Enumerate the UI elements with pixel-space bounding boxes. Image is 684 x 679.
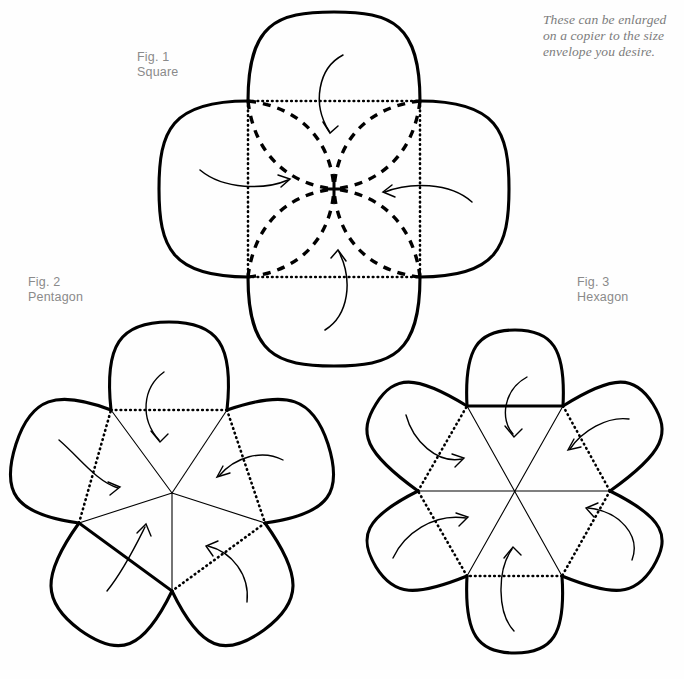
pentagon-fold-lower-left-solid <box>79 523 172 591</box>
figure-label-pentagon-line2: Pentagon <box>28 290 83 304</box>
figure-label-hexagon-line2: Hexagon <box>577 290 628 304</box>
hexagon-petal-upper-right <box>563 382 662 491</box>
pentagon-arrow-top <box>146 372 164 440</box>
pentagon-spoke-1 <box>111 410 172 493</box>
hexagon-petal-upper-left <box>367 382 467 491</box>
hexagon-arrow-upper-left <box>406 415 462 460</box>
pentagon-arrow-lower-right <box>208 546 247 602</box>
square-arrow-top <box>319 55 343 131</box>
figure-hexagon <box>367 330 662 653</box>
figure-label-pentagon: Fig. 2Pentagon <box>28 275 83 304</box>
hexagon-arrows <box>393 377 634 631</box>
envelope-template-drawing <box>0 0 684 679</box>
square-centre-mark <box>326 181 343 198</box>
hexagon-arrowhead-bottom <box>504 547 521 558</box>
hexagon-arrow-lower-left <box>393 517 466 558</box>
pentagon-spoke-5 <box>79 493 172 523</box>
template-sheet: Fig. 1Square Fig. 2Pentagon Fig. 3Hexago… <box>0 0 684 679</box>
pentagon-petal-lower-right <box>172 523 293 646</box>
figure-pentagon <box>10 322 334 646</box>
square-arrow-bottom <box>325 252 347 330</box>
figure-label-hexagon: Fig. 3Hexagon <box>577 275 628 304</box>
figure-label-square: Fig. 1Square <box>137 50 179 79</box>
pentagon-spoke-3 <box>172 493 265 523</box>
square-arrowhead-bottom <box>331 250 346 261</box>
hexagon-arrowhead-upper-left <box>452 454 464 467</box>
pentagon-petals <box>10 322 334 646</box>
hexagon-petal-bottom <box>467 576 563 653</box>
hexagon-fold-upper-left <box>418 406 467 491</box>
square-arrows <box>200 55 472 330</box>
pentagon-fold-upper-left <box>79 410 111 523</box>
hexagon-petal-lower-left <box>367 491 467 590</box>
square-arrow-right <box>385 185 472 202</box>
figure-label-hexagon-line1: Fig. 3 <box>577 275 609 289</box>
hexagon-arrowhead-top <box>505 426 522 437</box>
hexagon-arrow-upper-right <box>570 419 629 449</box>
pentagon-arrow-upper-left <box>59 440 118 488</box>
figure-label-square-line2: Square <box>137 65 179 79</box>
figure-label-square-line1: Fig. 1 <box>137 50 169 64</box>
square-arrow-left <box>200 170 288 187</box>
square-petal-bottom <box>248 277 420 366</box>
pentagon-arrows <box>59 372 283 602</box>
square-petal-right <box>420 101 509 277</box>
hexagon-arrowhead-lower-left <box>456 513 468 526</box>
hexagon-arrow-bottom <box>501 549 514 631</box>
figure-label-pentagon-line1: Fig. 2 <box>28 275 60 289</box>
enlargement-note: These can be enlarged on a copier to the… <box>543 12 675 59</box>
pentagon-fold-lower-right <box>172 523 265 591</box>
square-petal-left <box>159 101 248 277</box>
hexagon-diagonals <box>418 406 610 576</box>
pentagon-petal-top <box>109 322 228 410</box>
square-petal-top <box>248 12 420 101</box>
hexagon-petal-top <box>467 330 564 406</box>
hexagon-fold-lower-left <box>418 491 467 576</box>
hexagon-petal-lower-right <box>562 491 662 590</box>
pentagon-fold-upper-right <box>227 410 265 523</box>
hexagon-fold-lower-right <box>562 491 610 576</box>
pentagon-spoke-2 <box>172 410 227 493</box>
figure-square <box>159 12 509 366</box>
